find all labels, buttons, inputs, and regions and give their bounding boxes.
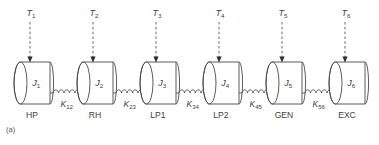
torque-label-6: T6 [342,8,352,19]
stiffness-label-12: K12 [61,99,74,110]
torque-arrow-6 [342,22,347,63]
labels-layer: J1HPT1J2RHT2J3LP1T3J4LP2T4J5GENT5J6EXCT6… [26,8,356,120]
torque-arrow-2 [90,22,95,63]
torque-label-1: T1 [27,8,37,19]
stage-label-high-pressure-turbine: HP [26,110,38,120]
stage-label-low-pressure-turbine-2: LP2 [213,110,229,120]
torques-layer [27,22,347,63]
masses-layer [14,62,369,104]
torque-arrow-3 [153,22,158,63]
stage-label-generator: GEN [275,110,294,120]
figure-caption: (a) [6,125,16,134]
stage-label-exciter: EXC [338,110,356,120]
torque-label-2: T2 [90,8,100,19]
stiffness-label-34: K34 [187,99,200,110]
torque-arrow-4 [216,22,221,63]
stage-label-low-pressure-turbine-1: LP1 [150,110,166,120]
torque-label-5: T5 [279,8,289,19]
stiffness-label-45: K45 [250,99,263,110]
torque-label-3: T3 [153,8,163,19]
figure-canvas: J1HPT1J2RHT2J3LP1T3J4LP2T4J5GENT5J6EXCT6… [0,0,379,145]
torque-arrow-1 [27,22,32,63]
stage-label-reheat-turbine: RH [89,110,101,120]
torque-label-4: T4 [216,8,226,19]
torsional-shaft-figure: J1HPT1J2RHT2J3LP1T3J4LP2T4J5GENT5J6EXCT6… [0,0,379,145]
stiffness-label-56: K56 [313,99,326,110]
torque-arrow-5 [279,22,284,63]
stiffness-label-23: K23 [124,99,137,110]
